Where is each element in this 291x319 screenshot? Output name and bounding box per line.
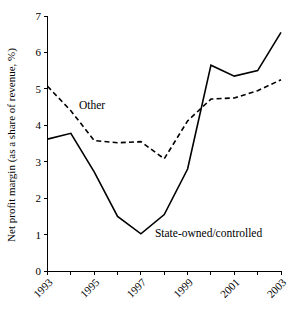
- chart-series-group: [48, 32, 282, 233]
- line-chart: 01234567 199319951997199920012003 OtherS…: [0, 0, 291, 319]
- y-tick-label: 2: [36, 192, 42, 204]
- y-tick-label: 6: [36, 46, 42, 58]
- y-tick-label: 3: [36, 156, 42, 168]
- series-line-state-owned-controlled: [48, 32, 282, 233]
- chart-annotations: OtherState-owned/controlled: [79, 99, 262, 239]
- y-tick-label: 7: [36, 10, 42, 22]
- y-axis-title: Net profit margin (as a share of revenue…: [5, 48, 18, 242]
- x-axis: 199319951997199920012003: [31, 271, 289, 300]
- x-tick-label: 1993: [31, 276, 55, 300]
- x-tick-label: 1999: [171, 276, 195, 300]
- y-tick-label: 5: [36, 83, 42, 95]
- series-line-other: [48, 80, 282, 159]
- y-tick-label: 4: [36, 119, 42, 131]
- x-tick-label: 2003: [264, 276, 288, 300]
- x-tick-label: 2001: [218, 276, 242, 300]
- x-tick-label: 1995: [78, 276, 102, 300]
- chart-figure: 01234567 199319951997199920012003 OtherS…: [0, 0, 291, 319]
- x-tick-label: 1997: [124, 276, 148, 300]
- y-tick-label: 0: [36, 265, 42, 277]
- y-axis: 01234567: [36, 10, 48, 277]
- y-tick-label: 1: [36, 229, 42, 241]
- series-label-other: Other: [79, 99, 105, 111]
- series-label-state-owned-controlled: State-owned/controlled: [155, 227, 263, 239]
